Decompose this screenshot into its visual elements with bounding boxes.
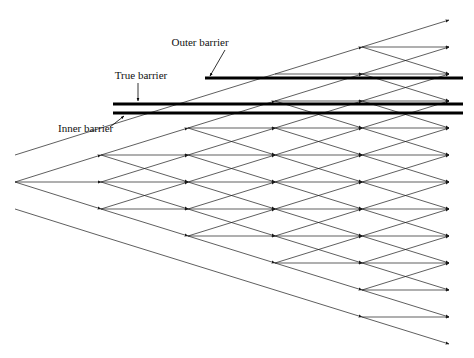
true-barrier-label: True barrier [115,69,168,81]
inner-barrier-label: Inner barrier [58,122,114,134]
trinomial-lattice-figure: Outer barrier True barrier Inner barrier [0,0,474,358]
figure-background [0,0,474,358]
outer-barrier-label: Outer barrier [171,36,228,48]
